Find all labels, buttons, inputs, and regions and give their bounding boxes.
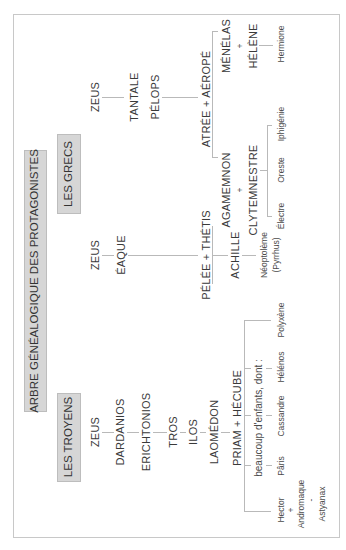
- child-oreste: Oreste: [277, 157, 286, 183]
- child-iphigenie: Iphigénie: [277, 107, 286, 142]
- connector: [260, 170, 267, 171]
- ilos: ILOS: [188, 419, 199, 445]
- plus-sign: +: [287, 508, 296, 513]
- priam-hecube: PRIAM + HÉCUBE: [232, 370, 243, 466]
- connector: [102, 97, 124, 98]
- bracket: [244, 320, 271, 321]
- greek-zeus-2: ZEUS: [90, 240, 101, 270]
- plus-sign: +: [236, 188, 245, 193]
- connector: [242, 255, 256, 256]
- child-hermione: Hermione: [277, 26, 286, 63]
- children-note: beaucoup d'enfants, dont :: [254, 359, 264, 477]
- erichtonios: ERICHTONIOS: [141, 393, 152, 471]
- neoptoleme-alias: (Pyrrhus): [272, 238, 281, 273]
- connector: [127, 432, 139, 433]
- bracket: [212, 157, 218, 158]
- atree-aerope: ATRÉE + AÉROPÉ: [201, 51, 212, 147]
- trojan-zeus: ZEUS: [90, 417, 101, 447]
- tick: [245, 415, 251, 416]
- tick: [266, 415, 272, 416]
- clytemnestre: CLYTEMNESTRE: [248, 145, 259, 236]
- dardanios: DARDANIOS: [115, 398, 126, 465]
- neoptoleme: Néoptolème: [260, 232, 269, 278]
- connector: [180, 432, 186, 433]
- connector: [102, 255, 114, 256]
- pelee-thetis: PÉLÉE + THÉTIS: [201, 210, 212, 300]
- greek-zeus-1: ZEUS: [90, 82, 101, 112]
- child-helenos: Hélénos: [277, 351, 286, 382]
- connector: [200, 432, 206, 433]
- page-title: ARBRE GÉNÉALOGIQUE DES PROTAGONISTES: [29, 149, 41, 413]
- connector: [153, 432, 167, 433]
- bracket: [244, 511, 271, 512]
- bracket: [244, 320, 245, 512]
- bracket: [212, 31, 213, 158]
- menelas: MÉNÉLAS: [221, 19, 232, 73]
- eaque: ÉAQUE: [116, 235, 127, 275]
- bracket: [267, 216, 272, 217]
- tantale: TANTALE: [129, 72, 140, 121]
- astyanax: Astyanax: [318, 487, 327, 522]
- tros: TROS: [168, 416, 179, 447]
- tick: [245, 368, 251, 369]
- section-greeks-label: LES GRECS: [63, 141, 75, 207]
- child-polyxene: Polyxène: [277, 303, 286, 338]
- child-electre: Électre: [277, 203, 286, 229]
- helene: HÉLÈNE: [248, 23, 259, 68]
- bracket: [267, 125, 272, 126]
- achille: ACHILLE: [230, 231, 241, 278]
- tick: [266, 368, 272, 369]
- connector: [212, 255, 228, 256]
- dash: -: [307, 499, 316, 502]
- pelops: PÉLOPS: [150, 74, 161, 119]
- tick: [266, 465, 272, 466]
- connector: [221, 432, 230, 433]
- genealogy-diagram: ARBRE GÉNÉALOGIQUE DES PROTAGONISTES LES…: [0, 0, 346, 550]
- andromaque: Andromaque: [297, 480, 306, 529]
- agamemnon: AGAMEMNON: [221, 152, 232, 227]
- plus-sign: +: [236, 44, 245, 49]
- laomedon: LAOMÉDON: [209, 400, 220, 465]
- connector: [128, 255, 198, 256]
- connector: [102, 432, 114, 433]
- child-cassandre: Cassandre: [277, 395, 286, 436]
- bracket: [212, 31, 218, 32]
- section-trojans-label: LES TROYENS: [63, 397, 75, 477]
- connector: [162, 97, 198, 98]
- bracket: [267, 125, 268, 217]
- child-hector: Hector: [277, 497, 286, 522]
- child-paris: Pâris: [277, 456, 286, 475]
- connector: [259, 45, 273, 46]
- tick: [245, 465, 251, 466]
